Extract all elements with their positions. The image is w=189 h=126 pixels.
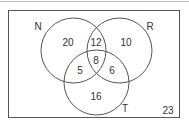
region-value-r-only: 10	[120, 37, 132, 48]
set-label-r: R	[146, 21, 153, 32]
region-value-outside: 23	[162, 105, 174, 116]
venn-diagram: NRT 2012108561623	[0, 0, 189, 126]
region-value-n-r-t: 8	[93, 55, 99, 66]
set-label-n: N	[34, 21, 41, 32]
region-value-n-and-r-only: 12	[90, 37, 102, 48]
set-label-t: T	[122, 103, 128, 114]
region-value-r-and-t-only: 6	[109, 65, 115, 76]
region-value-n-and-t-only: 5	[77, 65, 83, 76]
region-value-n-only: 20	[62, 37, 74, 48]
region-value-t-only: 16	[90, 91, 102, 102]
